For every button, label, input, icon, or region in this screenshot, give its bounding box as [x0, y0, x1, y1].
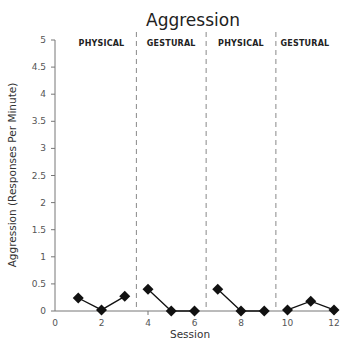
data-point-diamond: [189, 306, 200, 317]
y-tick-label: 3: [40, 143, 46, 153]
x-tick-label: 6: [192, 318, 198, 328]
x-tick-label: 8: [238, 318, 244, 328]
y-tick-label: 2.5: [32, 171, 46, 181]
y-tick-label: 0: [40, 306, 46, 316]
x-axis-label: Session: [170, 328, 210, 340]
aggression-chart: Aggression Session Aggression (Responses…: [0, 0, 350, 350]
y-tick-label: 4.5: [32, 62, 46, 72]
y-tick-label: 4: [40, 89, 46, 99]
data-point-diamond: [282, 304, 293, 315]
phase-label-gestural: GESTURAL: [281, 39, 330, 48]
y-axis-label: Aggression (Responses Per Minute): [6, 83, 18, 268]
chart-title: Aggression: [146, 10, 240, 30]
y-tick-label: 1.5: [32, 225, 46, 235]
data-point-diamond: [305, 296, 316, 307]
phase-label-gestural: GESTURAL: [147, 39, 196, 48]
data-point-diamond: [73, 292, 84, 303]
data-point-diamond: [119, 291, 130, 302]
y-tick-label: 2: [40, 198, 46, 208]
y-tick-label: 5: [40, 35, 46, 45]
phase-label-physical: PHYSICAL: [218, 39, 264, 48]
phase-label-physical: PHYSICAL: [79, 39, 125, 48]
x-tick-label: 12: [328, 318, 339, 328]
y-tick-label: 0.5: [32, 279, 46, 289]
x-tick-label: 10: [282, 318, 294, 328]
x-tick-label: 0: [52, 318, 58, 328]
y-tick-label: 3.5: [32, 116, 46, 126]
data-point-diamond: [259, 306, 270, 317]
y-tick-label: 1: [40, 252, 46, 262]
data-point-diamond: [96, 304, 107, 315]
x-tick-label: 2: [99, 318, 105, 328]
x-tick-label: 4: [145, 318, 151, 328]
data-point-diamond: [329, 304, 340, 315]
